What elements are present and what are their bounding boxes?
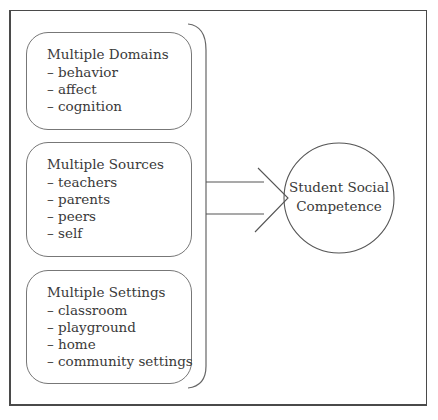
outcome-label: Student Social Competence: [284, 178, 394, 216]
group-item: – teachers: [47, 174, 191, 191]
group-item: – parents: [47, 191, 191, 208]
group-title: Multiple Domains: [47, 45, 191, 64]
outcome-label-line2: Competence: [284, 197, 394, 216]
group-item: – affect: [47, 81, 191, 98]
group-item: – cognition: [47, 98, 191, 115]
outcome-label-line1: Student Social: [284, 178, 394, 197]
group-item: – community settings: [47, 353, 191, 370]
group-box-domains: Multiple Domains – behavior – affect – c…: [26, 32, 192, 130]
group-item: – peers: [47, 208, 191, 225]
group-item: – self: [47, 225, 191, 242]
group-title: Multiple Sources: [47, 155, 191, 174]
group-box-sources: Multiple Sources – teachers – parents – …: [26, 142, 192, 257]
group-title: Multiple Settings: [47, 283, 191, 302]
group-box-settings: Multiple Settings – classroom – playgrou…: [26, 270, 192, 384]
arrow-icon: [206, 168, 288, 232]
group-item: – home: [47, 336, 191, 353]
group-item: – playground: [47, 319, 191, 336]
group-item: – classroom: [47, 302, 191, 319]
group-item: – behavior: [47, 64, 191, 81]
